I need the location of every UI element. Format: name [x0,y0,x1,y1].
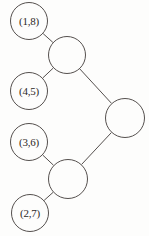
tree-leaf-node[interactable]: (1,8) [10,2,48,40]
tree-edge [43,155,54,165]
tree-leaf-node[interactable]: (3,6) [10,123,48,161]
tree-edge [43,34,53,43]
tree-node-label: (4,5) [19,85,39,96]
tree-node-label: (3,6) [19,136,39,147]
tree-edge [43,68,53,78]
tree-edge [80,69,112,103]
tree-edge [82,133,112,165]
tree-leaf-node[interactable]: (2,7) [11,194,49,232]
tree-edge [44,192,53,200]
tree-node-label: (1,8) [19,15,39,26]
tree-internal-node[interactable] [105,98,145,138]
tree-internal-node[interactable] [48,159,88,199]
tree-node-label: (2,7) [20,207,40,218]
tree-leaf-node[interactable]: (4,5) [10,72,48,110]
tree-diagram-canvas: (1,8)(4,5)(3,6)(2,7) [0,0,149,236]
tree-internal-node[interactable] [48,36,86,74]
